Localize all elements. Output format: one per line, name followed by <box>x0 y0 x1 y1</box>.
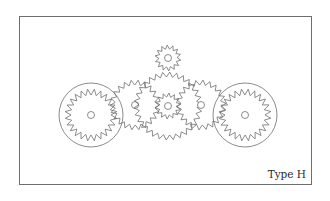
gear-train-diagram: Type H <box>0 0 330 201</box>
hub-circle <box>242 112 249 119</box>
left-idler-gear <box>110 80 160 130</box>
right-ring-gear <box>213 83 277 147</box>
hub-circle <box>165 103 172 110</box>
hub-circle <box>198 102 205 109</box>
right-idler-gear <box>176 80 226 130</box>
type-label: Type H <box>268 168 306 180</box>
hub-circle <box>165 55 172 62</box>
left-ring-gear <box>59 83 123 147</box>
hub-circle <box>88 112 95 119</box>
top-small-gear <box>155 45 181 71</box>
